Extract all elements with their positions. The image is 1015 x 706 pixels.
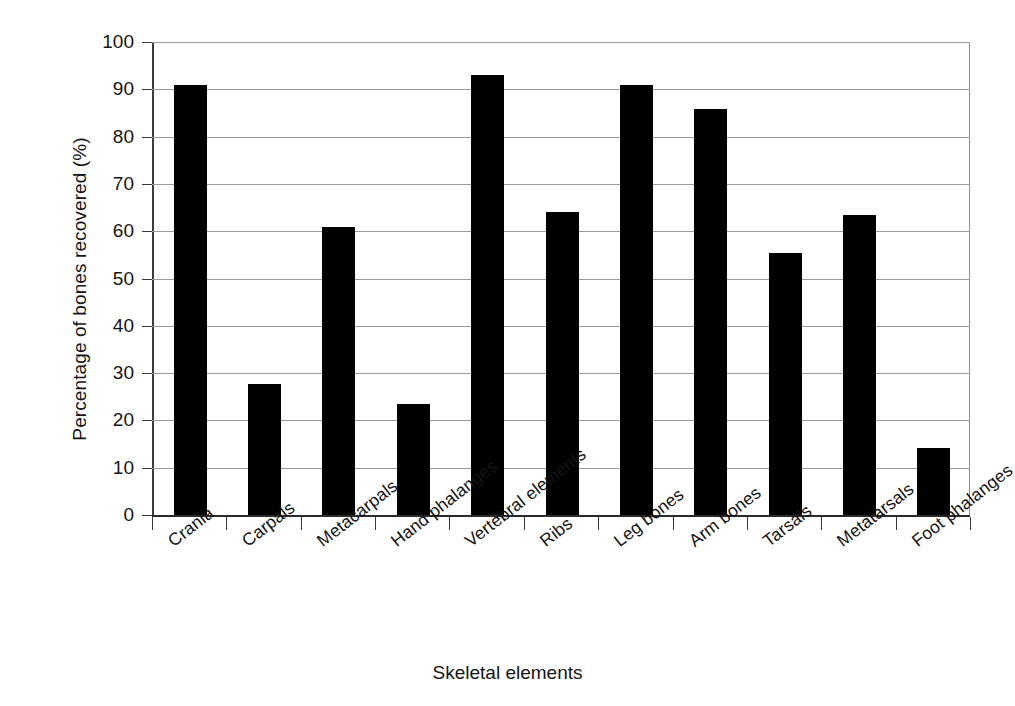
- y-tick-label: 20: [88, 410, 134, 429]
- y-tick-label: 70: [88, 174, 134, 193]
- y-tick-label: 60: [88, 221, 134, 240]
- y-tick-label: 40: [88, 316, 134, 335]
- x-tick-mark: [226, 517, 227, 530]
- grid-line: [152, 184, 970, 185]
- bar: [174, 85, 207, 515]
- bar: [620, 85, 653, 515]
- x-tick-mark: [821, 517, 822, 530]
- bar-chart-figure: Percentage of bones recovered (%) 010203…: [0, 0, 1015, 706]
- y-tick-label: 30: [88, 363, 134, 382]
- bar: [769, 253, 802, 516]
- x-tick-mark: [673, 517, 674, 530]
- x-tick-mark: [896, 517, 897, 530]
- bar: [471, 75, 504, 515]
- grid-line: [152, 42, 970, 43]
- x-tick-mark: [747, 517, 748, 530]
- bar: [843, 215, 876, 515]
- y-tick-label: 80: [88, 127, 134, 146]
- x-tick-mark: [598, 517, 599, 530]
- x-tick-mark: [152, 517, 153, 530]
- grid-line: [152, 137, 970, 138]
- y-tick-label: 50: [88, 269, 134, 288]
- y-tick-label: 90: [88, 79, 134, 98]
- y-tick-label: 10: [88, 458, 134, 477]
- x-tick-mark: [524, 517, 525, 530]
- x-category-label: Ribs: [536, 513, 577, 551]
- bar: [397, 404, 430, 515]
- x-tick-mark: [301, 517, 302, 530]
- y-tick-label: 100: [88, 32, 134, 51]
- bar: [322, 227, 355, 515]
- x-tick-mark: [970, 517, 971, 530]
- grid-line: [152, 89, 970, 90]
- x-tick-mark: [449, 517, 450, 530]
- x-tick-mark: [375, 517, 376, 530]
- bar: [248, 384, 281, 515]
- plot-area: [152, 42, 970, 515]
- y-tick-label: 0: [88, 505, 134, 524]
- bar: [694, 109, 727, 515]
- x-axis-title: Skeletal elements: [0, 662, 1015, 684]
